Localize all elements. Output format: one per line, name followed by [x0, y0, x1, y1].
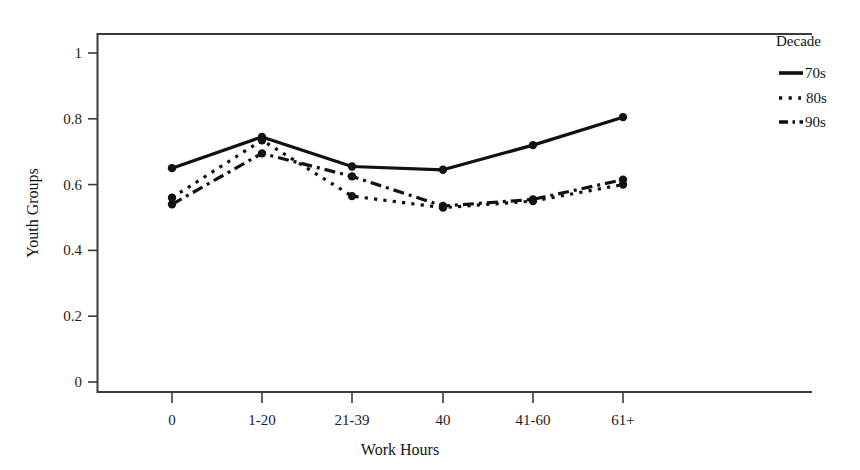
data-point-90s-41-60[interactable] — [529, 195, 537, 203]
x-tick-label-2: 21-39 — [335, 412, 370, 428]
data-point-70s-41-60[interactable] — [529, 141, 537, 149]
legend-label-80s: 80s — [806, 90, 827, 106]
y-tick-label-0.6: 0.6 — [63, 177, 82, 193]
data-point-70s-0[interactable] — [168, 164, 176, 172]
y-tick-label-0.2: 0.2 — [63, 308, 82, 324]
legend-title: Decade — [776, 33, 821, 49]
chart-figure: 1 0.8 0.6 0.4 0.2 0 Youth Groups 0 1-20 … — [0, 0, 860, 470]
data-point-80s-1-20[interactable] — [258, 136, 266, 144]
data-point-90s-40[interactable] — [439, 202, 447, 210]
data-point-90s-21-39[interactable] — [348, 172, 356, 180]
data-point-70s-61+[interactable] — [619, 113, 627, 121]
y-axis-title: Youth Groups — [24, 168, 42, 258]
x-tick-label-3: 40 — [436, 412, 451, 428]
data-point-90s-1-20[interactable] — [258, 149, 266, 157]
x-axis-title: Work Hours — [361, 441, 439, 458]
data-point-70s-21-39[interactable] — [348, 162, 356, 170]
x-tick-label-1: 1-20 — [248, 412, 276, 428]
x-tick-label-4: 41-60 — [516, 412, 551, 428]
line-chart: 1 0.8 0.6 0.4 0.2 0 Youth Groups 0 1-20 … — [0, 0, 860, 470]
y-tick-label-1: 1 — [75, 45, 83, 61]
x-tick-label-0: 0 — [168, 412, 176, 428]
y-tick-label-0.4: 0.4 — [63, 242, 82, 258]
y-tick-label-0.8: 0.8 — [63, 111, 82, 127]
data-point-90s-61+[interactable] — [619, 175, 627, 183]
legend-label-70s: 70s — [805, 65, 826, 81]
data-point-90s-0[interactable] — [168, 200, 176, 208]
data-point-70s-40[interactable] — [439, 166, 447, 174]
chart-background — [0, 0, 860, 470]
x-tick-label-5: 61+ — [611, 412, 634, 428]
y-tick-label-0: 0 — [75, 374, 83, 390]
data-point-80s-21-39[interactable] — [348, 192, 356, 200]
legend-label-90s: 90s — [805, 114, 826, 130]
